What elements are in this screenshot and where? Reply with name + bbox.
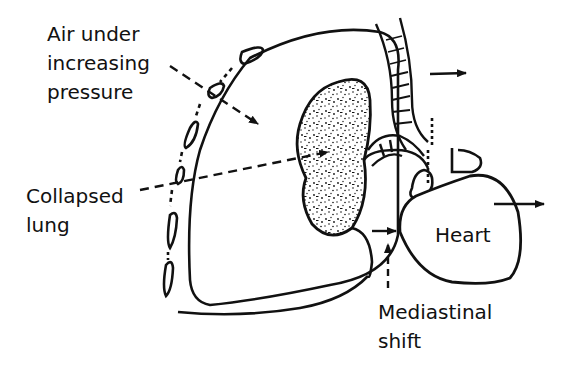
label-air-under-pressure: Air under increasing pressure [47, 20, 150, 107]
ribs [164, 47, 263, 296]
label-mediastinal-shift: Mediastinal shift [378, 298, 492, 356]
tension-pneumothorax-diagram: Air under increasing pressure Collapsed … [0, 0, 569, 367]
pleural-outline [189, 30, 399, 305]
label-heart: Heart [435, 221, 491, 250]
label-collapsed-lung: Collapsed lung [26, 182, 124, 240]
